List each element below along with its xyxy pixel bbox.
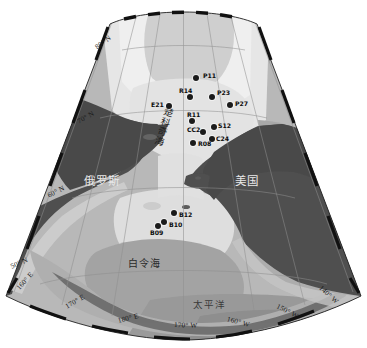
station-label-P23: P23: [217, 89, 230, 96]
map-canvas: [0, 0, 367, 348]
station-marker-P23[interactable]: [209, 94, 215, 100]
station-marker-R14[interactable]: [187, 94, 193, 100]
station-marker-R08[interactable]: [190, 140, 196, 146]
station-marker-S12[interactable]: [211, 124, 217, 130]
lon-label-170w: 170° W: [174, 321, 198, 330]
place-label-russia: 俄罗斯: [84, 172, 121, 188]
place-label-bering-sea: 白令海: [128, 255, 161, 270]
station-marker-E21[interactable]: [166, 103, 172, 109]
station-marker-B12[interactable]: [171, 210, 177, 216]
station-marker-B10[interactable]: [161, 219, 167, 225]
station-marker-P27[interactable]: [227, 102, 233, 108]
station-label-B09: B09: [150, 229, 163, 236]
station-label-P27: P27: [235, 100, 248, 107]
station-label-P11: P11: [203, 72, 216, 79]
station-label-R14: R14: [179, 87, 192, 94]
station-label-B12: B12: [179, 211, 192, 218]
station-marker-CC2[interactable]: [200, 129, 206, 135]
station-label-R08: R08: [198, 140, 211, 147]
map-figure: 80° N 70° N 60° N 50° N 160° E 170° E 18…: [0, 0, 367, 348]
station-label-C24: C24: [216, 135, 229, 142]
station-label-E21: E21: [151, 101, 164, 108]
station-label-S12: S12: [218, 122, 231, 129]
station-label-R11: R11: [187, 111, 200, 118]
st-lawrence-island: [143, 202, 161, 210]
station-marker-R11[interactable]: [189, 118, 195, 124]
station-marker-P11[interactable]: [193, 75, 199, 81]
place-label-usa: 美国: [235, 172, 259, 188]
station-label-CC2: CC2: [187, 126, 200, 133]
diomede-islands: [195, 176, 201, 180]
place-label-pacific-ocean: 太平洋: [193, 297, 226, 311]
station-label-B10: B10: [169, 221, 182, 228]
